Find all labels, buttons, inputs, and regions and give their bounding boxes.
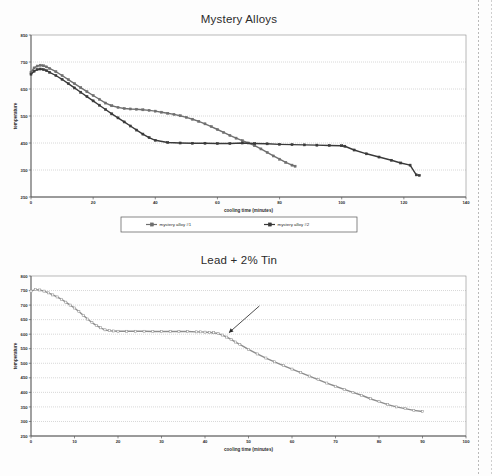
series-marker-2: [192, 142, 194, 144]
series-marker-1: [36, 65, 38, 67]
series-marker-1: [34, 289, 36, 291]
series-marker-1: [45, 66, 47, 68]
x-axis-tick-label: 80: [377, 439, 382, 444]
series-marker-1: [192, 118, 194, 120]
series-marker-1: [241, 140, 243, 142]
series-marker-1: [91, 321, 93, 323]
series-marker-1: [274, 361, 276, 363]
legend-label-1: mystery alloy #1: [160, 222, 192, 227]
series-marker-1: [204, 123, 206, 125]
series-marker-1: [421, 411, 423, 413]
series-marker-2: [167, 141, 169, 143]
scanned-page: Mystery Alloys 2503504505506507508500204…: [0, 0, 492, 476]
series-marker-2: [216, 142, 218, 144]
series-marker-2: [49, 71, 51, 73]
series-marker-2: [229, 142, 231, 144]
series-marker-1: [387, 404, 389, 406]
legend-marker-1: [150, 223, 153, 226]
y-axis-tick-label: 800: [21, 274, 29, 279]
series-marker-2: [105, 108, 107, 110]
y-axis-tick-label: 550: [21, 114, 29, 119]
series-marker-1: [308, 375, 310, 377]
y-axis-tick-label: 600: [21, 332, 29, 337]
series-marker-1: [60, 298, 62, 300]
chart-mystery-alloys[interactable]: 250350450550650750850020406080100120140c…: [0, 25, 478, 245]
x-axis-tick-label: 100: [338, 200, 346, 205]
series-marker-2: [303, 144, 305, 146]
series-marker-1: [200, 331, 202, 333]
series-marker-2: [344, 145, 346, 147]
x-axis-title: cooling time (minutes): [224, 208, 273, 213]
series-marker-1: [117, 106, 119, 108]
y-axis-tick-label: 450: [21, 141, 29, 146]
series-marker-1: [113, 330, 115, 332]
series-marker-1: [154, 110, 156, 112]
series-marker-2: [123, 121, 125, 123]
series-marker-1: [326, 382, 328, 384]
series-marker-1: [143, 330, 145, 332]
series-marker-2: [241, 142, 243, 144]
y-axis-tick-label: 250: [21, 434, 29, 439]
series-marker-2: [136, 129, 138, 131]
series-marker-1: [152, 331, 154, 333]
series-marker-1: [317, 379, 319, 381]
chart-block-lead-2pct-tin: Lead + 2% Tin 25030035040045050055060065…: [0, 246, 478, 476]
series-marker-1: [160, 331, 162, 333]
series-marker-1: [213, 332, 215, 334]
series-marker-2: [86, 96, 88, 98]
series-marker-2: [129, 125, 131, 127]
series-marker-1: [169, 331, 171, 333]
y-axis-tick-label: 450: [21, 375, 29, 380]
series-marker-1: [216, 128, 218, 130]
series-marker-2: [291, 144, 293, 146]
series-marker-1: [378, 401, 380, 403]
series-marker-1: [111, 105, 113, 107]
series-marker-1: [254, 145, 256, 147]
series-marker-1: [334, 385, 336, 387]
y-axis-tick-label: 250: [21, 195, 29, 200]
legend-marker-2: [268, 223, 271, 226]
series-marker-1: [279, 158, 281, 160]
series-marker-1: [285, 161, 287, 163]
series-marker-1: [343, 388, 345, 390]
series-marker-1: [260, 148, 262, 150]
x-axis-tick-label: 120: [400, 200, 408, 205]
x-axis-title: cooling time (minutes): [224, 447, 273, 452]
series-marker-2: [341, 145, 343, 147]
series-marker-1: [352, 391, 354, 393]
plot-area: [31, 276, 466, 436]
series-marker-1: [223, 131, 225, 133]
series-marker-2: [254, 142, 256, 144]
x-axis-tick-label: 20: [91, 200, 96, 205]
series-marker-1: [108, 330, 110, 332]
x-axis-tick-label: 10: [72, 439, 77, 444]
series-marker-1: [30, 290, 32, 292]
series-marker-1: [178, 331, 180, 333]
series-marker-2: [61, 78, 63, 80]
series-marker-2: [148, 137, 150, 139]
series-marker-1: [395, 406, 397, 408]
series-marker-1: [73, 307, 75, 309]
series-marker-1: [43, 290, 45, 292]
series-marker-1: [86, 91, 88, 93]
x-axis-tick-label: 60: [215, 200, 220, 205]
series-marker-2: [316, 144, 318, 146]
series-marker-1: [73, 83, 75, 85]
chart-lead-2pct-tin[interactable]: 2503003504004505005506006507007508000102…: [0, 266, 478, 466]
series-marker-1: [300, 372, 302, 374]
series-marker-1: [179, 115, 181, 117]
series-marker-1: [39, 64, 41, 66]
series-marker-2: [30, 73, 32, 75]
series-marker-1: [92, 94, 94, 96]
x-axis-tick-label: 140: [463, 200, 471, 205]
series-marker-1: [167, 112, 169, 114]
x-axis-tick-label: 30: [159, 439, 164, 444]
series-marker-1: [98, 98, 100, 100]
series-marker-1: [208, 331, 210, 333]
chart-block-mystery-alloys: Mystery Alloys 2503504505506507508500204…: [0, 0, 478, 246]
series-marker-2: [353, 149, 355, 151]
series-marker-1: [134, 330, 136, 332]
x-axis-tick-label: 40: [203, 439, 208, 444]
x-axis-tick-label: 80: [277, 200, 282, 205]
series-marker-1: [195, 331, 197, 333]
